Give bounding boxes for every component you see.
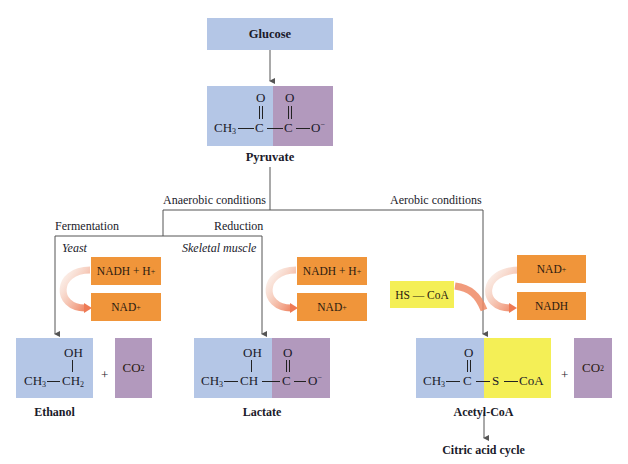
acetyl-ch3: CH3 (423, 373, 445, 389)
glucose-box: Glucose (207, 18, 333, 50)
acetyl-o-top: O (464, 345, 473, 361)
ethanol-label: Ethanol (16, 405, 93, 420)
fermentation-nad-box: NAD+ (91, 293, 161, 321)
ethanol-ch3: CH3 (24, 373, 46, 389)
pyruvate-label: Pyruvate (207, 150, 333, 165)
ethanol-plus: + (101, 367, 108, 383)
aerobic-nad-box: NAD+ (517, 255, 586, 283)
ethanol-co2-box: CO2 (115, 338, 152, 398)
hs-coa-box: HS — CoA (390, 281, 454, 308)
acetyl-plus: + (561, 367, 568, 383)
yeast-label: Yeast (62, 241, 87, 256)
citric-acid-cycle-label: Citric acid cycle (416, 443, 551, 458)
fermentation-curved-arrow (63, 270, 90, 308)
lactate-o-top: O (283, 345, 292, 361)
fermentation-label: Fermentation (55, 219, 119, 234)
acetyl-coa-region (484, 338, 551, 398)
pyruvate-ch3: CH3 (214, 120, 236, 136)
aerobic-nadh-box: NADH (517, 292, 586, 320)
pyruvate-c1: C (255, 120, 264, 136)
ethanol-ch2: CH2 (62, 373, 84, 389)
ethanol-oh: OH (64, 345, 83, 361)
lactate-ch3: CH3 (201, 373, 223, 389)
reduction-nad-box: NAD+ (297, 293, 367, 321)
glucose-label: Glucose (249, 27, 291, 42)
lactate-label: Lactate (194, 405, 330, 420)
skeletal-muscle-label: Skeletal muscle (182, 241, 256, 256)
acetyl-s: S (492, 373, 499, 389)
lactate-c: C (282, 373, 291, 389)
lactate-oh: OH (243, 345, 262, 361)
aerobic-label: Aerobic conditions (390, 193, 482, 208)
pyruvate-o2: O (285, 90, 294, 106)
lactate-ch: CH (240, 373, 258, 389)
pyruvate-c2: C (284, 120, 293, 136)
anaerobic-label: Anaerobic conditions (163, 193, 266, 208)
acetyl-co2-box: CO2 (574, 338, 612, 398)
pyruvate-o-minus: O− (311, 120, 325, 136)
acetyl-coa-text: CoA (519, 373, 544, 389)
reduction-nadh-box: NADH + H+ (297, 257, 367, 285)
reduction-label: Reduction (214, 219, 263, 234)
acetyl-coa-label: Acetyl-CoA (416, 405, 551, 420)
pyruvate-carboxyl-region (273, 86, 333, 146)
fermentation-nadh-box: NADH + H+ (91, 257, 161, 285)
lactate-carboxyl-region (272, 338, 330, 398)
acetyl-c: C (463, 373, 472, 389)
lactate-o-minus: O− (308, 373, 322, 389)
pyruvate-o1: O (256, 90, 265, 106)
acetyl-methyl-region (416, 338, 484, 398)
